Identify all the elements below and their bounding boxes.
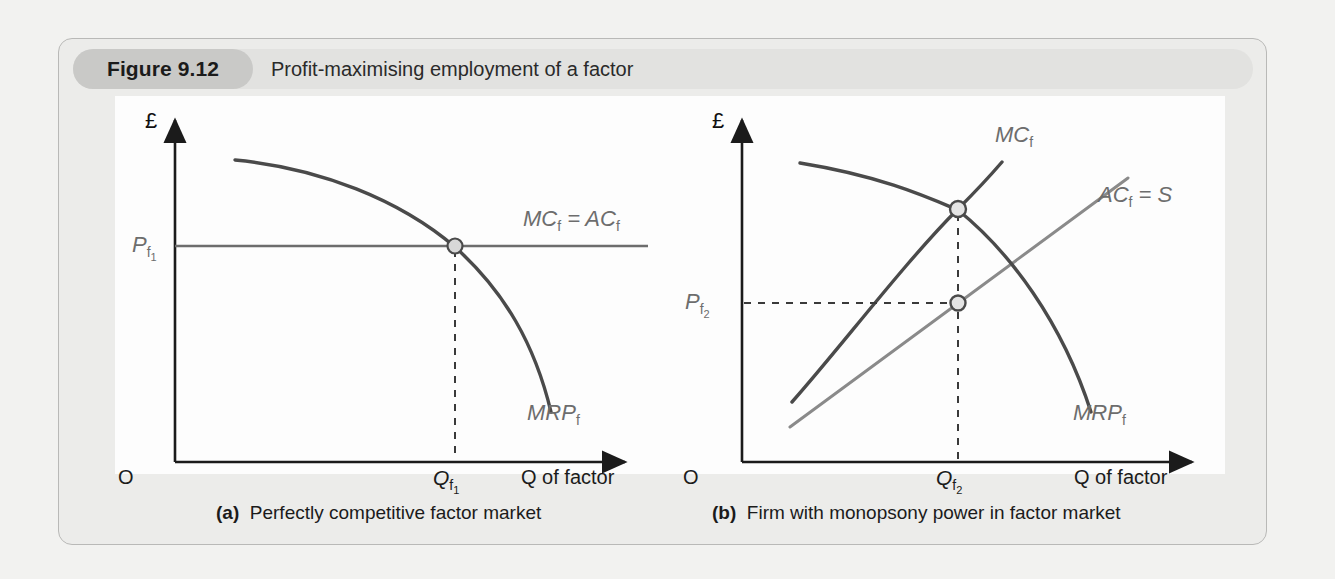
panel-b-quantity-tick-label: Qf2 <box>936 466 962 496</box>
panel-b-caption: (b) Firm with monopsony power in factor … <box>712 502 1121 524</box>
panel-a-mrpf-label: MRPf <box>527 400 580 428</box>
panel-b-acf-s-label: ACf = S <box>1098 182 1172 210</box>
panel-b-mcf-label: MCf <box>995 122 1033 150</box>
panel-b-price-label: Pf2 <box>685 289 710 320</box>
panel-a-origin-label: O <box>118 466 134 489</box>
panel-a-price-label: Pf1 <box>132 232 157 263</box>
panel-b-y-axis-label: £ <box>712 108 724 134</box>
panel-b-mrpf-label: MRPf <box>1073 400 1126 428</box>
figure-title: Profit-maximising employment of a factor <box>271 49 633 89</box>
panel-a-caption: (a) Perfectly competitive factor market <box>216 502 541 524</box>
panel-a-mcf-acf-label: MCf = ACf <box>523 206 620 234</box>
panel-a-y-axis-label: £ <box>145 108 157 134</box>
panel-a-x-axis-label: Q of factor <box>521 466 614 489</box>
plot-canvas <box>115 96 1225 474</box>
figure-number-badge: Figure 9.12 <box>73 49 253 89</box>
panel-b-origin-label: O <box>683 466 699 489</box>
panel-a-quantity-tick-label: Qf1 <box>433 466 459 496</box>
panel-b-x-axis-label: Q of factor <box>1074 466 1167 489</box>
